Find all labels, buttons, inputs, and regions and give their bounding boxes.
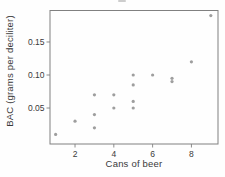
scatter-plot-figure: 24680.050.100.15 BAC (grams per decilite… [0,0,225,177]
y-tick-label: 0.05 [28,103,45,113]
plot-frame [50,11,218,145]
data-point [112,93,115,96]
y-tick-label: 0.10 [28,70,45,80]
data-point [54,133,57,136]
data-point [93,93,96,96]
data-point [93,113,96,116]
scatter-plot-canvas: 24680.050.100.15 [0,0,225,177]
data-point [209,14,212,17]
data-point [190,60,193,63]
x-axis-title: Cans of beer [50,158,218,169]
y-axis-title: BAC (grams per deciliter) [4,15,15,127]
data-point [93,126,96,129]
data-point [112,106,115,109]
data-point [151,73,154,76]
data-point [132,100,135,103]
data-point [132,83,135,86]
data-point [132,73,135,76]
data-point [132,106,135,109]
data-point [170,80,173,83]
data-point [170,77,173,80]
data-point [73,120,76,123]
y-tick-label: 0.15 [28,37,45,47]
